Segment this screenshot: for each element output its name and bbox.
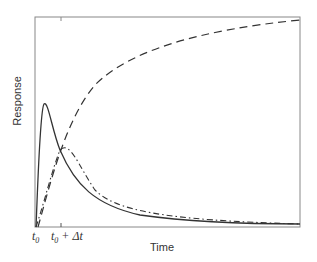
solid-curve [36, 104, 300, 227]
tick-label-t0: t0 [32, 229, 39, 245]
response-chart [0, 0, 317, 262]
y-axis-label: Response [11, 76, 23, 126]
tick-label-t0-dt: t0 + Δt [51, 229, 83, 245]
dashed-curve [38, 20, 300, 227]
plot-frame [35, 17, 300, 227]
x-axis-label: Time [150, 241, 174, 253]
dashdot-curve [36, 148, 300, 227]
